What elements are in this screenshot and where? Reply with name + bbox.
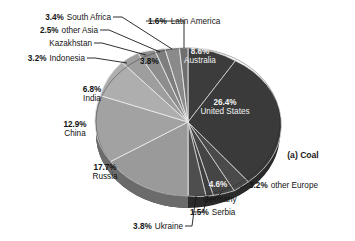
label-kazakhstan-pct: 3.8% — [140, 57, 159, 66]
label-united-states-pct: 26.4% — [213, 98, 237, 107]
label-serbia: 1.5%Serbia — [190, 208, 236, 217]
label-germany-pct: 4.6% — [209, 180, 228, 189]
label-indonesia: 3.2%Indonesia — [28, 54, 86, 63]
chart-caption: (a) Coal — [287, 150, 319, 160]
label-india-name: India — [83, 94, 101, 103]
label-china-name: China — [64, 129, 86, 138]
pie-chart-svg: 3.4%South Africa 2.5%other Asia Kazakhst… — [0, 0, 355, 241]
leader-kazakhstan — [94, 43, 146, 55]
label-australia-pct: 8.6% — [191, 47, 210, 56]
label-kazakhstan: Kazakhstan — [49, 39, 92, 48]
leader-other-asia — [100, 30, 160, 52]
label-united-states-name: United States — [200, 107, 249, 116]
label-china-pct: 12.9% — [63, 120, 87, 129]
label-india-pct: 6.8% — [83, 85, 102, 94]
label-ukraine: 3.8%Ukraine — [133, 222, 183, 231]
label-other-europe: 3.2%other Europe — [249, 181, 318, 190]
label-australia-name: Australia — [184, 56, 216, 65]
pie-chart-coal: 3.4%South Africa 2.5%other Asia Kazakhst… — [0, 0, 355, 241]
label-south-africa: 3.4%South Africa — [45, 13, 111, 22]
label-other-asia: 2.5%other Asia — [40, 26, 99, 35]
label-russia-name: Russia — [92, 172, 117, 181]
label-germany-name: Germany — [203, 195, 238, 204]
label-latin-america: 1.6%Latin America — [148, 17, 221, 26]
pie-slices — [95, 48, 282, 197]
leader-indonesia — [87, 58, 127, 63]
label-russia-pct: 17.7% — [93, 163, 117, 172]
